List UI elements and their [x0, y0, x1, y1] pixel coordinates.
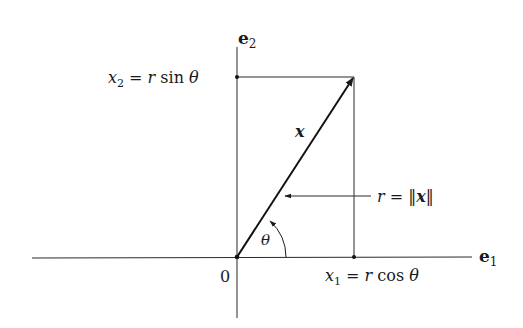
origin-dot	[235, 255, 240, 260]
x2-dot	[235, 75, 239, 79]
magnitude-label: r = ‖x‖	[377, 187, 434, 206]
x1-dot	[352, 255, 356, 259]
e2-label: e2	[238, 28, 256, 51]
x1-equation-label: x1 = r cos θ	[325, 266, 419, 288]
origin-label: 0	[220, 267, 230, 286]
horizontal-axis	[32, 257, 472, 258]
vector-x-label: x	[294, 122, 305, 141]
polar-coordinates-diagram: e2 e1 0 x2 = r sin θ x1 = r cos θ r = ‖x…	[0, 0, 523, 328]
x2-equation-label: x2 = r sin θ	[108, 68, 199, 90]
e1-label: e1	[479, 246, 497, 269]
theta-label: θ	[261, 231, 270, 249]
angle-arc	[270, 221, 286, 257]
vector-x-arrow	[237, 78, 353, 257]
